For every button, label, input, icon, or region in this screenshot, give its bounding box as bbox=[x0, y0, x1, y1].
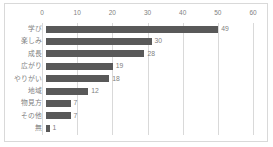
bar[interactable] bbox=[46, 63, 113, 70]
bar[interactable] bbox=[46, 38, 152, 45]
bar-value-label: 12 bbox=[91, 85, 99, 97]
bar-value-label: 49 bbox=[221, 23, 229, 35]
category-label: 無 bbox=[35, 122, 42, 134]
bar[interactable] bbox=[46, 88, 88, 95]
bar-value-label: 7 bbox=[74, 97, 78, 109]
bar-row: 地域12 bbox=[5, 85, 269, 97]
bar-value-label: 19 bbox=[116, 60, 124, 72]
bar[interactable] bbox=[46, 125, 50, 132]
category-label: 物見方 bbox=[21, 97, 42, 109]
category-label: 地域 bbox=[28, 85, 42, 97]
bar-row: 学び49 bbox=[5, 23, 269, 35]
x-tick-label: 50 bbox=[214, 8, 221, 18]
category-label: やりがい bbox=[14, 73, 42, 85]
bar[interactable] bbox=[46, 50, 144, 57]
category-label: その他 bbox=[21, 110, 42, 122]
category-label: 広がり bbox=[21, 60, 42, 72]
bar-value-label: 18 bbox=[112, 73, 120, 85]
bar[interactable] bbox=[46, 112, 71, 119]
bar[interactable] bbox=[46, 100, 71, 107]
bar[interactable] bbox=[46, 26, 218, 33]
bar-rows: 学び49楽しみ30成長28広がり19やりがい18地域12物見方7その他7無1 bbox=[5, 23, 269, 135]
category-label: 楽しみ bbox=[21, 35, 42, 47]
category-label: 成長 bbox=[28, 48, 42, 60]
bar-row: 楽しみ30 bbox=[5, 35, 269, 47]
chart-frame: 0102030405060 学び49楽しみ30成長28広がり19やりがい18地域… bbox=[4, 3, 268, 142]
bar-row: その他7 bbox=[5, 110, 269, 122]
bar-value-label: 28 bbox=[147, 48, 155, 60]
bar[interactable] bbox=[46, 75, 109, 82]
bar-value-label: 7 bbox=[74, 110, 78, 122]
x-tick-label: 0 bbox=[40, 8, 44, 18]
bar-row: やりがい18 bbox=[5, 73, 269, 85]
x-tick-label: 30 bbox=[144, 8, 151, 18]
x-axis-tick-labels: 0102030405060 bbox=[42, 8, 253, 22]
bar-row: 物見方7 bbox=[5, 97, 269, 109]
bar-row: 無1 bbox=[5, 122, 269, 134]
bar-row: 成長28 bbox=[5, 48, 269, 60]
x-tick-label: 60 bbox=[249, 8, 256, 18]
bar-value-label: 30 bbox=[155, 35, 163, 47]
x-tick-label: 20 bbox=[109, 8, 116, 18]
category-label: 学び bbox=[28, 23, 42, 35]
x-tick-label: 40 bbox=[179, 8, 186, 18]
x-tick-label: 10 bbox=[74, 8, 81, 18]
bar-value-label: 1 bbox=[53, 122, 57, 134]
bar-row: 広がり19 bbox=[5, 60, 269, 72]
